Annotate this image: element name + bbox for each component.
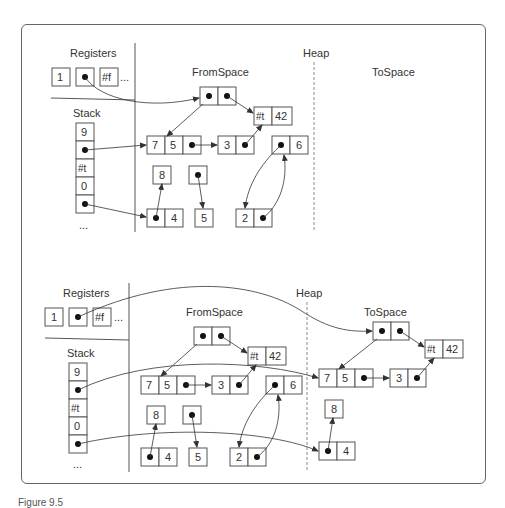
- stack-ellipsis: ...: [79, 219, 88, 231]
- stack-value: 9: [81, 126, 87, 138]
- cell-value: 2: [242, 212, 248, 224]
- fromspace-objects: #t 42 7 5 3 6 8: [147, 87, 308, 227]
- registers-label: Registers: [70, 47, 117, 59]
- register-value: #f: [102, 71, 112, 83]
- cell-value: 2: [236, 451, 242, 463]
- cell-value: 4: [171, 212, 177, 224]
- register-value: 1: [51, 311, 57, 323]
- cell-value: 3: [224, 139, 230, 151]
- cell-value: 4: [165, 451, 171, 463]
- stack: 9 #t 0 ...: [76, 123, 94, 231]
- panel-before: Registers Stack Heap FromSpace ToSpace 1…: [51, 43, 415, 232]
- figure-caption: Figure 9.5: [18, 497, 63, 508]
- cell-value: 42: [269, 350, 281, 362]
- cell-value: #t: [256, 111, 265, 122]
- register-value: 1: [57, 71, 63, 83]
- cell-value: 7: [146, 379, 152, 391]
- stack-label: Stack: [67, 347, 95, 359]
- cell-value: 5: [195, 451, 201, 463]
- register-ellipsis: ...: [120, 71, 129, 83]
- register-ellipsis: ...: [114, 311, 123, 323]
- registers: 1 #f ...: [45, 308, 123, 326]
- cell-value: 7: [152, 139, 158, 151]
- stack-value: 0: [74, 420, 80, 432]
- cell-value: #t: [427, 344, 436, 355]
- stack: 9 #t 0 ...: [69, 363, 87, 470]
- stack-value: 0: [81, 180, 87, 192]
- cell-value: 8: [159, 169, 165, 181]
- cell-value: 6: [290, 379, 296, 391]
- heap-label: Heap: [303, 47, 329, 59]
- cell-value: 7: [324, 372, 330, 384]
- tospace-label: ToSpace: [364, 306, 407, 318]
- cell-value: 5: [170, 139, 176, 151]
- fromspace-label: FromSpace: [186, 306, 243, 318]
- stack-label: Stack: [73, 107, 101, 119]
- heap-label: Heap: [296, 287, 322, 299]
- registers-stack-divider: [45, 338, 129, 340]
- cell-value: 5: [164, 379, 170, 391]
- cell-value: 3: [218, 379, 224, 391]
- cell-value: 42: [275, 110, 287, 122]
- stack-ellipsis: ...: [73, 458, 82, 470]
- register-value: #f: [95, 311, 105, 323]
- registers-label: Registers: [63, 287, 110, 299]
- stack-value: #t: [78, 163, 87, 174]
- tospace-label: ToSpace: [372, 66, 415, 78]
- cell-value: 8: [331, 403, 337, 415]
- cell-value: 3: [396, 372, 402, 384]
- cell-value: 8: [153, 409, 159, 421]
- panel-after: Registers Stack Heap FromSpace ToSpace 1…: [45, 283, 463, 472]
- cell-value: #t: [250, 351, 259, 362]
- tospace-objects: #t 42 7 5 3 8 4: [319, 322, 463, 460]
- cell-value: 5: [342, 372, 348, 384]
- cell-value: 42: [446, 343, 458, 355]
- fromspace-label: FromSpace: [192, 66, 249, 78]
- cell-value: 4: [343, 445, 349, 457]
- cell-value: 6: [296, 139, 302, 151]
- stack-value: 9: [74, 366, 80, 378]
- stack-value: #t: [71, 403, 80, 414]
- cell-value: 5: [201, 212, 207, 224]
